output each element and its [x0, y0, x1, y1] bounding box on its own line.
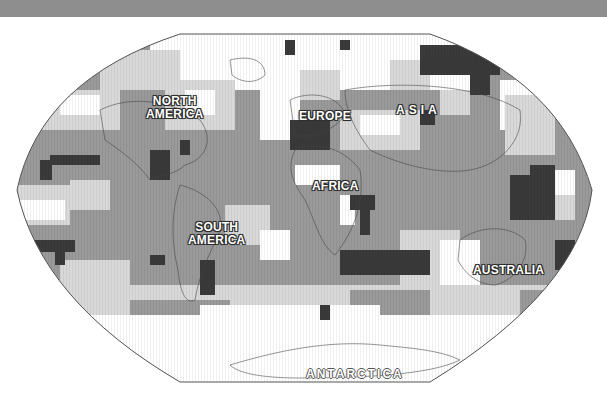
tone-grid: [0, 0, 607, 399]
label-north-america: NORTH AMERICA: [146, 95, 203, 121]
label-south-america: SOUTH AMERICA: [188, 221, 245, 247]
world-map: NORTH AMERICA EUROPE ASIA AFRICA SOUTH A…: [0, 0, 607, 399]
label-africa: AFRICA: [312, 180, 359, 193]
label-line: EUROPE: [299, 110, 351, 123]
label-line: AMERICA: [146, 108, 203, 121]
label-line: AFRICA: [312, 180, 359, 193]
label-europe: EUROPE: [299, 110, 351, 123]
label-antarctica: ANTARCTICA: [306, 368, 404, 381]
label-line: AMERICA: [188, 234, 245, 247]
label-line: ASIA: [396, 104, 441, 117]
label-australia: AUSTRALIA: [473, 264, 544, 277]
label-line: AUSTRALIA: [473, 264, 544, 277]
label-line: ANTARCTICA: [306, 368, 404, 381]
map-canvas: [0, 0, 607, 399]
label-asia: ASIA: [396, 104, 441, 117]
